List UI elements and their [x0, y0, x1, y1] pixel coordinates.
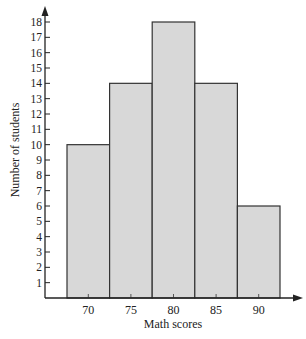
y-tick-label: 12: [31, 108, 43, 120]
y-tick-label: 7: [36, 185, 42, 197]
y-axis-ticks: 123456789101112131415161718: [31, 16, 51, 289]
y-tick-label: 11: [31, 123, 42, 135]
y-tick-label: 18: [31, 16, 43, 28]
y-tick-label: 15: [31, 62, 43, 74]
bar-90: [237, 206, 280, 298]
x-tick-label: 75: [125, 303, 137, 317]
bar-80: [152, 22, 195, 298]
y-tick-label: 10: [31, 139, 43, 151]
y-tick-label: 1: [36, 277, 42, 289]
y-axis-label: Number of students: [8, 103, 23, 198]
bars-group: [67, 22, 280, 298]
y-tick-label: 16: [31, 47, 43, 59]
bar-70: [67, 145, 110, 298]
y-tick-label: 13: [31, 93, 43, 105]
y-tick-label: 14: [31, 77, 43, 89]
x-axis-label: Math scores: [144, 317, 202, 332]
histogram-chart: 123456789101112131415161718 7075808590: [0, 0, 306, 339]
x-axis-arrow-icon: [293, 295, 303, 302]
y-tick-label: 5: [36, 215, 42, 227]
y-tick-label: 4: [36, 231, 42, 243]
y-axis-arrow-icon: [42, 6, 49, 16]
x-tick-label: 70: [82, 303, 94, 317]
y-tick-label: 6: [36, 200, 42, 212]
y-tick-label: 8: [36, 169, 42, 181]
x-tick-label: 90: [253, 303, 265, 317]
bar-75: [110, 83, 153, 298]
x-tick-label: 85: [210, 303, 222, 317]
y-tick-label: 9: [36, 154, 42, 166]
bar-85: [195, 83, 238, 298]
y-tick-label: 2: [36, 261, 42, 273]
y-tick-label: 3: [36, 246, 42, 258]
x-tick-label: 80: [168, 303, 180, 317]
y-tick-label: 17: [31, 31, 43, 43]
